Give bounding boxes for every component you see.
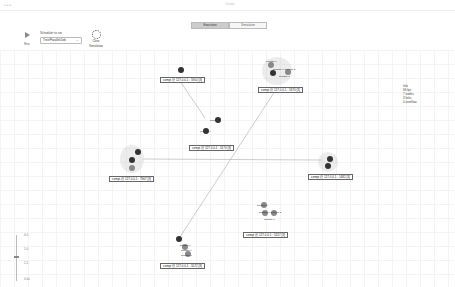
subtask-label: subtask 1 subtask 2 [259, 211, 281, 214]
zoom-tick: 1.5 [24, 261, 28, 265]
node-dot[interactable] [327, 156, 333, 162]
subtask-label: subtask 3 [264, 218, 275, 221]
zoom-handle[interactable] [14, 256, 19, 258]
subtask-label: subtask 1 [200, 130, 211, 133]
node-label: compt @ 127.0.0.1 : 5257 [3] [243, 232, 288, 238]
node-dot[interactable] [129, 165, 135, 171]
subtask-label: subtask 0 [180, 244, 191, 247]
subtask-label: subtask 3 [279, 75, 290, 78]
info-legend: Info 96 fps 7 nodes 3 links 0 overflow [403, 84, 417, 104]
node-label: compt @ 127.0.0.1 : 5170 [3] [189, 145, 234, 151]
subtask-label: subtask 2 [181, 254, 192, 257]
node-label: compt @ 127.0.0.1 : 5572 [3] [160, 263, 205, 269]
node-label: compt @ 127.0.0.1 : 5950 [3] [160, 77, 205, 83]
node-dot[interactable] [176, 236, 182, 242]
node-label: compt @ 127.0.0.1 : 1482 [3] [308, 174, 353, 180]
subtask-label: subtask 1 [181, 249, 192, 252]
subtask-label: subtask 0 [210, 119, 221, 122]
zoom-tick: 0.0x [24, 277, 30, 281]
node-halo [318, 152, 338, 172]
subtask-label: subtask 0 [257, 204, 268, 207]
zoom-slider[interactable]: 0.5 1.0 1.5 0.0x [6, 233, 36, 283]
node-label: compt @ 127.0.0.1 : 5370 [3] [258, 87, 303, 93]
node-dot[interactable] [178, 67, 184, 73]
legend-item: 0 overflow [403, 100, 417, 104]
zoom-track[interactable] [16, 235, 17, 281]
subtask-label: subtask 0 [266, 60, 277, 63]
node-dot[interactable] [129, 157, 135, 163]
node-label: compt @ 127.0.0.1 : 7967 [3] [109, 176, 154, 182]
zoom-tick: 0.5 [24, 233, 28, 237]
subtask-label: subtask 1 subtask 2 [273, 68, 295, 71]
node-dot[interactable] [325, 163, 331, 169]
zoom-tick: 1.0 [24, 247, 28, 251]
graph-edges [0, 0, 455, 287]
node-dot[interactable] [135, 149, 141, 155]
